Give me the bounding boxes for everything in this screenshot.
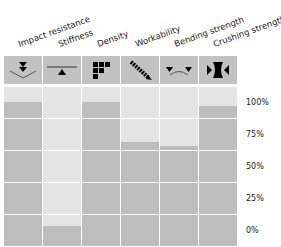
fill-bar	[82, 215, 120, 246]
label-density: Density	[96, 29, 129, 48]
cell	[199, 119, 237, 150]
fill-bar	[199, 106, 237, 118]
density-icon	[82, 56, 120, 84]
cell	[4, 183, 42, 214]
fill-bar	[199, 119, 237, 150]
fill-bar	[199, 215, 237, 246]
cell	[199, 151, 237, 182]
fill-bar	[82, 119, 120, 150]
cell	[199, 215, 237, 246]
cell	[160, 215, 198, 246]
cell	[160, 183, 198, 214]
fill-bar	[199, 151, 237, 182]
cell	[43, 215, 81, 246]
cell	[160, 151, 198, 182]
ytick-75: 75%	[246, 130, 264, 139]
cell	[121, 119, 159, 150]
fill-bar	[121, 215, 159, 246]
cell	[4, 119, 42, 150]
cell	[121, 183, 159, 214]
workability-icon	[121, 56, 159, 84]
fill-bar	[199, 183, 237, 214]
cell	[82, 87, 120, 118]
cell	[199, 87, 237, 118]
fill-bar	[82, 151, 120, 182]
crushing-icon	[199, 56, 237, 84]
fill-bar	[121, 142, 159, 150]
cell	[121, 151, 159, 182]
cell	[121, 215, 159, 246]
cell	[4, 87, 42, 118]
fill-bar	[121, 183, 159, 214]
fill-bar	[160, 151, 198, 182]
fill-bar	[160, 146, 198, 150]
cell	[43, 119, 81, 150]
fill-bar	[160, 215, 198, 246]
ytick-0: 0%	[246, 226, 259, 235]
cell	[43, 87, 81, 118]
fill-bar	[121, 151, 159, 182]
cell	[199, 183, 237, 214]
cell	[82, 183, 120, 214]
fill-bar	[43, 226, 81, 246]
ytick-100: 100%	[246, 98, 269, 107]
impact-icon	[4, 56, 42, 84]
cell	[160, 119, 198, 150]
cell	[160, 87, 198, 118]
bending-icon	[160, 56, 198, 84]
cell	[4, 151, 42, 182]
ytick-25: 25%	[246, 194, 264, 203]
fill-bar	[4, 102, 42, 118]
cell	[121, 87, 159, 118]
stiffness-icon	[43, 56, 81, 84]
cell	[43, 151, 81, 182]
fill-bar	[82, 183, 120, 214]
fill-bar	[82, 102, 120, 118]
cell	[43, 183, 81, 214]
fill-bar	[4, 215, 42, 246]
fill-bar	[4, 183, 42, 214]
cell	[82, 151, 120, 182]
fill-bar	[4, 151, 42, 182]
fill-bar	[160, 183, 198, 214]
cell	[4, 215, 42, 246]
ytick-50: 50%	[246, 162, 264, 171]
fill-bar	[4, 119, 42, 150]
cell	[82, 119, 120, 150]
cell	[82, 215, 120, 246]
